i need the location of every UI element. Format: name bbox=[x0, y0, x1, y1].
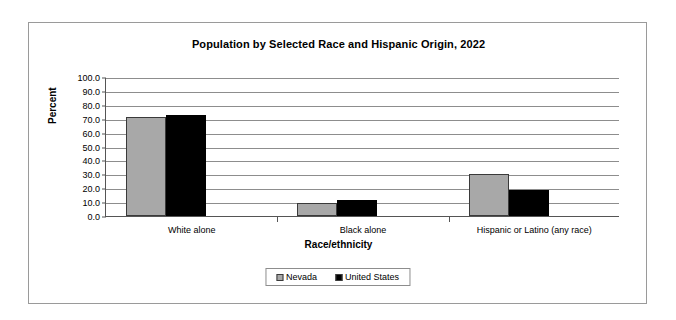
x-axis-separator bbox=[449, 216, 450, 222]
x-axis-separator bbox=[277, 216, 278, 222]
y-axis-tick-label: 90.0 bbox=[82, 87, 100, 97]
legend-label: Nevada bbox=[286, 272, 317, 282]
bar-united-states bbox=[337, 200, 377, 216]
y-axis-tick-label: 60.0 bbox=[82, 129, 100, 139]
bar-nevada bbox=[297, 203, 337, 216]
y-axis-tick-label: 20.0 bbox=[82, 184, 100, 194]
legend-label: United States bbox=[345, 272, 399, 282]
legend-item: United States bbox=[335, 272, 399, 282]
legend-item: Nevada bbox=[276, 272, 317, 282]
y-axis-tick-label: 80.0 bbox=[82, 101, 100, 111]
chart-title: Population by Selected Race and Hispanic… bbox=[29, 38, 648, 50]
y-axis-tick-mark bbox=[102, 217, 106, 218]
y-axis-tick-label: 100.0 bbox=[77, 73, 100, 83]
bar-united-states bbox=[166, 115, 206, 216]
x-axis-category-label: Black alone bbox=[340, 225, 387, 235]
y-axis-tick-label: 70.0 bbox=[82, 115, 100, 125]
legend-swatch-icon bbox=[335, 274, 342, 281]
y-axis-tick-label: 0.0 bbox=[87, 212, 100, 222]
x-axis-title: Race/ethnicity bbox=[29, 239, 648, 250]
bar-group bbox=[277, 78, 448, 216]
y-axis-tick-label: 40.0 bbox=[82, 156, 100, 166]
legend-swatch-icon bbox=[276, 274, 283, 281]
y-axis-tick-label: 10.0 bbox=[82, 198, 100, 208]
y-axis-tick-label: 30.0 bbox=[82, 170, 100, 180]
bar-group bbox=[106, 78, 277, 216]
y-axis-title: Percent bbox=[47, 87, 58, 124]
y-axis-tick-label: 50.0 bbox=[82, 143, 100, 153]
bar-nevada bbox=[469, 174, 509, 216]
x-axis-category-label: White alone bbox=[168, 225, 216, 235]
x-axis-category-label: Hispanic or Latino (any race) bbox=[477, 225, 592, 235]
plot-area: 100.090.080.070.060.050.040.030.020.010.… bbox=[105, 78, 619, 217]
bar-group bbox=[449, 78, 620, 216]
plot-wrapper: 100.090.080.070.060.050.040.030.020.010.… bbox=[105, 78, 619, 217]
chart-frame: Population by Selected Race and Hispanic… bbox=[28, 22, 647, 304]
chart-legend: NevadaUnited States bbox=[265, 268, 410, 286]
bar-united-states bbox=[509, 190, 549, 216]
bar-nevada bbox=[126, 117, 166, 216]
